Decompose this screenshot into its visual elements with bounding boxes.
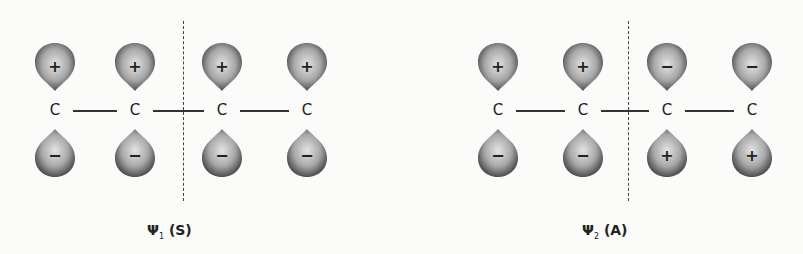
upper-lobe-sign: +: [33, 59, 77, 75]
lower-lobe-sign: +: [730, 148, 774, 164]
carbon-atom: C: [488, 102, 508, 118]
carbon-atom: C: [125, 102, 145, 118]
lower-lobe-sign: −: [113, 148, 157, 164]
sigma-bond: [153, 110, 204, 112]
upper-lobe-sign: +: [561, 59, 605, 75]
upper-lobe-sign: −: [645, 59, 689, 75]
mirror-plane-line: [628, 21, 629, 201]
sigma-bond: [516, 110, 565, 112]
mirror-plane-line: [183, 21, 184, 201]
psi-symbol: Ψ: [147, 222, 159, 238]
upper-lobe-sign: +: [476, 59, 520, 75]
psi-symbol: Ψ: [582, 222, 594, 238]
orbital-index: 2: [594, 232, 599, 241]
sigma-bond: [73, 110, 117, 112]
orbital-label: Ψ2 (A): [582, 222, 628, 241]
symmetry-label: (S): [169, 222, 192, 238]
carbon-atom: C: [297, 102, 317, 118]
lower-lobe-sign: −: [200, 148, 244, 164]
sigma-bond: [685, 110, 734, 112]
lower-lobe-sign: −: [33, 148, 77, 164]
carbon-atom: C: [212, 102, 232, 118]
upper-lobe-sign: +: [285, 59, 329, 75]
carbon-atom: C: [45, 102, 65, 118]
lower-lobe-sign: −: [561, 148, 605, 164]
upper-lobe-sign: −: [730, 59, 774, 75]
orbital-index: 1: [159, 232, 164, 241]
carbon-atom: C: [573, 102, 593, 118]
orbital-label: Ψ1 (S): [147, 222, 192, 241]
lower-lobe-sign: −: [476, 148, 520, 164]
carbon-atom: C: [657, 102, 677, 118]
upper-lobe-sign: +: [113, 59, 157, 75]
lower-lobe-sign: −: [285, 148, 329, 164]
carbon-atom: C: [742, 102, 762, 118]
sigma-bond: [240, 110, 289, 112]
upper-lobe-sign: +: [200, 59, 244, 75]
lower-lobe-sign: +: [645, 148, 689, 164]
symmetry-label: (A): [604, 222, 628, 238]
sigma-bond: [601, 110, 649, 112]
